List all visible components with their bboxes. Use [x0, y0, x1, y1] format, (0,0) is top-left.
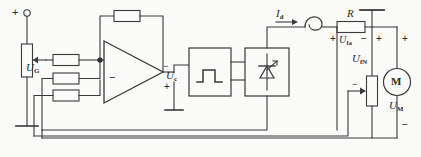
- input-resistor-3: [53, 90, 79, 101]
- shunt-resistor-r: [337, 22, 365, 33]
- uia-plus-sign: +: [330, 34, 336, 44]
- label-um: UM: [389, 100, 403, 111]
- label-uc: Uc: [166, 70, 177, 81]
- wire-r2-feedback-left: [42, 79, 53, 131]
- potentiometer-ufn-body: [367, 76, 378, 106]
- circuit-schematic-svg: [0, 0, 421, 157]
- pulse-generator: [189, 48, 231, 96]
- label-ug-sub: G: [34, 67, 39, 74]
- wire-r2-to-node: [79, 62, 100, 79]
- opamp-inverting-sign: −: [109, 72, 115, 83]
- supply-plus-sign: +: [12, 7, 18, 18]
- label-um-sub: M: [397, 105, 403, 112]
- label-r: R: [347, 8, 354, 19]
- wire-thyristor-top-to-inductor: [267, 27, 305, 48]
- wire-r3-to-node: [79, 80, 100, 96]
- ufn-wiper-minus-sign: −: [352, 80, 357, 89]
- current-arrow-id-head: [292, 19, 298, 25]
- label-uc-sub: c: [174, 75, 177, 82]
- label-ufn-sub: fN: [360, 58, 367, 65]
- wire-ufn-feedback-to-r3: [34, 91, 348, 136]
- motor-letter: M: [391, 76, 401, 87]
- uia-minus-sign: −: [361, 34, 367, 44]
- input-resistor-2: [53, 73, 79, 84]
- circuit-diagram: + UG − − Uc + Id R + UIa − + UfN − M + −…: [0, 0, 421, 157]
- label-ufn-symbol: U: [352, 52, 360, 64]
- feedback-resistor: [114, 11, 140, 22]
- label-ug-symbol: U: [26, 61, 34, 73]
- label-uia: UIa: [339, 35, 352, 45]
- label-ug: UG: [26, 62, 39, 73]
- input-resistor-1: [53, 55, 79, 66]
- potentiometer-ufn-wiper-arrow: [360, 88, 366, 95]
- label-id-sub: d: [280, 13, 284, 20]
- label-uia-sub: Ia: [346, 39, 352, 46]
- motor-plus-sign: +: [402, 34, 408, 44]
- label-id: Id: [276, 8, 283, 19]
- motor-minus-sign: −: [402, 120, 408, 130]
- smoothing-inductor: [305, 17, 322, 30]
- label-uc-symbol: U: [166, 69, 174, 81]
- supply-terminal-node: [24, 10, 30, 16]
- label-ufn: UfN: [352, 53, 367, 64]
- opamp-output-plus-sign: +: [164, 82, 170, 92]
- label-um-symbol: U: [389, 99, 397, 111]
- ufn-plus-sign: +: [376, 34, 382, 44]
